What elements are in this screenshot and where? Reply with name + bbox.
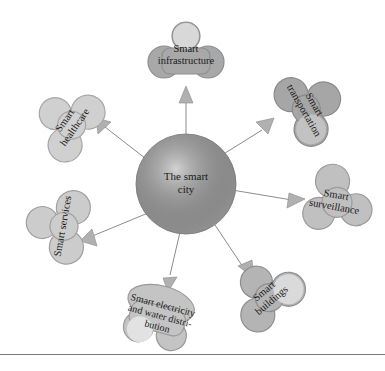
center-node: The smart city [136, 134, 236, 234]
svg-text:Smart: Smart [173, 43, 198, 54]
center-label: The smart [164, 170, 208, 182]
arrow-icon [179, 86, 193, 103]
node-smart-electricity-water: Smart electricity and water distri- buti… [117, 278, 200, 355]
svg-text:The smart: The smart [164, 170, 208, 182]
node-smart-buildings: Smart buildings [218, 246, 313, 339]
svg-text:city: city [178, 183, 195, 195]
node-smart-transportation: Smart transportation [268, 58, 357, 152]
bottom-rule [0, 354, 385, 355]
node-smart-surveillance: Smart surveillance [300, 160, 379, 238]
svg-text:infrastructure: infrastructure [158, 55, 215, 66]
node-smart-services: Smart services [20, 183, 93, 266]
node-smart-healthcare: Smart healthcare [21, 74, 112, 168]
arrow-icon [287, 193, 305, 208]
smart-city-diagram: The smart city Smart infrastructure Smar… [0, 0, 385, 371]
node-smart-infrastructure: Smart infrastructure [148, 22, 224, 78]
